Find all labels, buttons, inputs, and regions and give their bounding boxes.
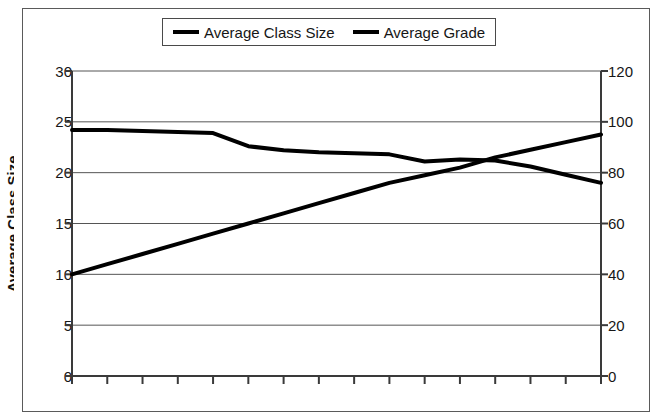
legend-entry-average-class-size: Average Class Size <box>173 25 335 40</box>
x-axis-ticks <box>72 376 601 384</box>
series-line-average-grade <box>72 135 601 275</box>
line-swatch-icon <box>173 30 199 34</box>
y-axis-title-text: Average Class Size <box>5 150 14 299</box>
series-line-average-class-size <box>72 130 601 183</box>
y-axis-title-cropped: Average Class Size <box>0 150 14 300</box>
line-swatch-icon <box>353 30 379 34</box>
legend-entry-average-grade: Average Grade <box>353 25 485 40</box>
chart-container: Average Class Size 30 25 20 15 10 5 0 12… <box>0 0 661 418</box>
gridlines <box>72 71 601 376</box>
chart-legend: Average Class Size Average Grade <box>162 18 496 46</box>
legend-label-average-class-size: Average Class Size <box>204 25 335 40</box>
legend-label-average-grade: Average Grade <box>384 25 485 40</box>
y-axis-right-ticks <box>601 71 608 376</box>
plot-area <box>0 0 661 418</box>
y-axis-left-ticks <box>65 71 72 376</box>
